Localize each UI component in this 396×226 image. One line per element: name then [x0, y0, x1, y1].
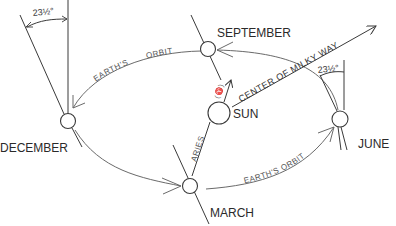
orbit-label-top: EARTH'S ORBIT	[92, 46, 174, 83]
orbit-arrowhead-june	[318, 127, 334, 142]
label-september: SEPTEMBER	[217, 26, 291, 40]
orbit-path-mar-jun	[206, 127, 334, 189]
label-december: DECEMBER	[0, 141, 68, 155]
sun-icon	[208, 102, 230, 124]
earth-march-icon	[183, 179, 198, 194]
orbit-label-earths: EARTH'S	[92, 58, 130, 84]
orbit-arrowhead-december	[73, 95, 85, 108]
aries-symbol: (♈)	[212, 82, 225, 99]
label-sun: SUN	[233, 107, 258, 121]
label-aries: ARIES	[189, 135, 206, 163]
tilt-angle-arc-left	[27, 19, 67, 27]
june-axis-lower-b	[338, 127, 341, 150]
orbit-lower-right-arc: EARTH'S ORBIT	[206, 127, 334, 189]
december-node: DECEMBER	[0, 114, 76, 156]
label-march: MARCH	[210, 206, 254, 220]
orbit-arrowhead-september	[217, 42, 233, 57]
orbit-path-sep-dec	[73, 51, 201, 108]
orbit-path-dec-mar	[75, 130, 181, 186]
label-june: JUNE	[358, 137, 389, 151]
december-tilt-axis	[20, 15, 64, 114]
aries-direction-arrow	[224, 80, 231, 102]
orbit-arrowhead-march	[162, 178, 181, 194]
tilt-angle-label-right: 23½°	[317, 63, 339, 75]
orbit-label-bottom: EARTH'S ORBIT	[243, 151, 307, 185]
june-tilt-axis	[320, 75, 337, 111]
orbit-upper-arc: EARTH'S ORBIT	[73, 46, 201, 108]
earth-june-icon	[332, 111, 348, 127]
june-axis-lower-a	[341, 127, 347, 150]
june-node: 23½° JUNE	[317, 60, 389, 151]
earth-september-icon	[201, 42, 216, 57]
orbit-label-orbit: ORBIT	[145, 46, 173, 60]
orbit-diagram: 23½° EARTH'S ORBIT EARTH'S ORBIT SE	[0, 0, 396, 226]
september-node: SEPTEMBER	[191, 15, 291, 80]
orbit-lower-left-arc	[75, 130, 181, 194]
tilt-angle-label-left: 23½°	[32, 6, 54, 18]
earth-december-icon	[61, 114, 76, 129]
